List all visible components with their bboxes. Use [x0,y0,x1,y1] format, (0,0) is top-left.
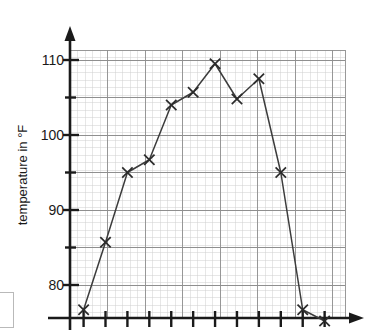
y-tick-label-90: 90 [48,202,64,218]
chart-figure: 110 100 90 80 temperature in °F [0,0,370,330]
y-axis-arrowhead [65,26,76,41]
y-tick-label-80: 80 [48,277,64,293]
y-tick-label-100: 100 [41,127,65,143]
plot-background [70,50,345,318]
page-edge-artifact [0,292,14,328]
y-axis-title: temperature in °F [15,125,30,226]
x-axis-arrowhead [349,313,364,324]
y-tick-label-110: 110 [42,52,65,68]
temperature-line-chart: 110 100 90 80 temperature in °F [0,0,370,330]
